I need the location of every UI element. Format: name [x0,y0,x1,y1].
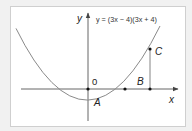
origin-label: 0 [92,76,97,87]
equation-label: y = (3x − 4)(3x + 4) [96,15,157,24]
y-axis-label: y [76,13,83,24]
root-point [123,87,126,90]
parabola-diagram: y x y = (3x − 4)(3x + 4) 0 A B C [0,0,192,131]
foot-point [148,87,151,90]
point-c-label: C [155,46,163,57]
x-axis-label: x [168,94,175,105]
region-b-label: B [137,76,144,87]
origin-point [86,87,89,90]
point-c [148,47,151,50]
region-a-label: A [93,97,101,108]
